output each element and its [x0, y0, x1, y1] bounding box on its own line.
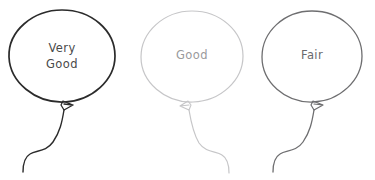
balloon-good[interactable]: Good: [141, 11, 243, 173]
balloons-drawing: Very Good Good Fair: [0, 0, 375, 180]
balloon-label-line-1: Very: [48, 41, 75, 55]
balloon-very-good[interactable]: Very Good: [9, 10, 115, 172]
balloon-label-line-1: Fair: [301, 48, 323, 62]
balloon-knot-icon: [61, 101, 73, 110]
balloon-knot-icon: [311, 101, 323, 110]
balloon-label-line-2: Good: [46, 57, 78, 71]
balloon-fair[interactable]: Fair: [262, 11, 362, 172]
balloon-scene: ——— ———— Very Good Good Fair: [0, 0, 375, 180]
balloon-knot-icon: [180, 101, 191, 110]
balloon-string: [23, 110, 64, 172]
balloon-string: [189, 110, 229, 173]
balloon-label-line-1: Good: [176, 48, 208, 62]
balloon-string: [273, 110, 314, 172]
